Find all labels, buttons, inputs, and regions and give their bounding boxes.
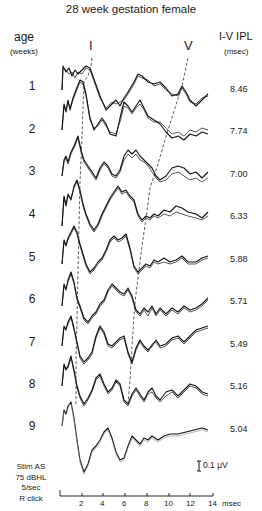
stim-level: 75 dBHL: [15, 473, 47, 484]
stim-type: R click: [15, 494, 47, 505]
x-tick-4: 4: [100, 499, 104, 508]
x-tick-12: 12: [186, 499, 195, 508]
stim-rate: 5/sec: [15, 483, 47, 494]
x-tick-6: 6: [122, 499, 126, 508]
x-tick-10: 10: [164, 499, 173, 508]
waveform-plot: [0, 0, 262, 511]
x-tick-14: 14: [208, 499, 217, 508]
stim-ear: Stim AS: [15, 462, 47, 473]
x-axis: [60, 490, 213, 496]
scale-bar-label: 0.1 μV: [203, 460, 228, 470]
x-tick-8: 8: [144, 499, 148, 508]
wave-v-latency-line: [128, 58, 188, 404]
x-axis-unit: msec: [222, 499, 241, 508]
scale-bar-icon: [197, 461, 201, 471]
x-tick-2: 2: [79, 499, 83, 508]
stimulus-params: Stim AS 75 dBHL 5/sec R click: [15, 462, 47, 504]
